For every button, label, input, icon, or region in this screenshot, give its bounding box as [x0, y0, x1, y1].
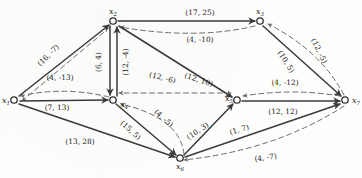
nodes-layer — [11, 18, 348, 161]
edge-label-x6-x7: (1, 7) — [228, 122, 250, 136]
edge-x1-x4 — [20, 100, 108, 101]
node-x6[interactable] — [177, 155, 183, 161]
node-x2[interactable] — [110, 18, 116, 24]
node-label-x4: x4 — [120, 100, 129, 110]
edge-label-x2-x4: (6, 4) — [94, 52, 103, 72]
node-x7[interactable] — [342, 97, 348, 103]
node-x4[interactable] — [110, 97, 116, 103]
node-label-x2: x2 — [109, 7, 118, 17]
edge-label-x5-x4: (12, -6) — [148, 70, 177, 85]
edge-labels-layer: (17, 25) (4, -10) (16, -7) (4, -13) (7, … — [35, 8, 329, 164]
node-label-x7: x7 — [352, 96, 361, 106]
node-label-x5: x5 — [225, 94, 234, 104]
edge-label-x4-x1: (4, -13) — [46, 73, 73, 82]
edge-x2-x5 — [119, 26, 232, 97]
edge-label-x6-x4: (4, -5) — [152, 107, 175, 129]
edge-label-x7-x5: (4, -12) — [271, 78, 298, 87]
node-x5[interactable] — [234, 97, 240, 103]
edge-x1-x6 — [19, 104, 175, 157]
edge-x7-x5 — [243, 92, 340, 96]
edge-label-x4-x2: (12, -4) — [121, 48, 130, 75]
edge-label-x3-x2: (4, -10) — [186, 35, 213, 44]
node-label-x1: x1 — [2, 96, 10, 106]
node-label-x6: x6 — [176, 162, 185, 172]
node-x1[interactable] — [11, 97, 17, 103]
edge-label-x2-x3: (17, 25) — [185, 8, 214, 17]
edge-label-x1-x6: (13, 28) — [65, 137, 94, 146]
node-label-x3: x3 — [256, 7, 265, 17]
diagram-canvas: x1 x2 x3 x4 x5 x6 x7 (17, 25) (4, -10) — [0, 0, 362, 178]
edge-x7-x6 — [184, 106, 344, 160]
edge-label-x7-x3: (12, -5) — [309, 37, 329, 65]
node-labels-layer: x1 x2 x3 x4 x5 x6 x7 — [2, 7, 361, 172]
edge-label-x5-x7: (12, 12) — [268, 107, 297, 116]
network-graph: x1 x2 x3 x4 x5 x6 x7 (17, 25) (4, -10) — [0, 0, 362, 178]
edge-label-x2-x1: (16, -7) — [35, 42, 61, 68]
node-x3[interactable] — [257, 18, 263, 24]
edge-label-x7-x6: (4, -7) — [254, 151, 278, 163]
edge-label-x2-x5: (12, 10) — [183, 71, 214, 89]
edge-x4-x1 — [20, 91, 109, 97]
edge-x3-x2 — [120, 26, 255, 33]
edge-label-x1-x4: (7, 13) — [45, 103, 70, 112]
